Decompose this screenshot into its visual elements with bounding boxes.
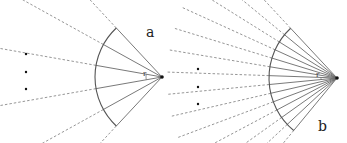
panel-b	[167, 0, 339, 143]
panel-a	[0, 0, 164, 143]
solid-ray	[271, 78, 337, 93]
solid-ray	[287, 78, 337, 124]
dashed-ray-extension	[167, 72, 269, 76]
dashed-ray-extension	[18, 109, 104, 143]
solid-ray	[285, 35, 337, 78]
dashed-ray-extension	[193, 0, 280, 42]
dashed-ray-extension	[182, 8, 275, 50]
ellipsis-dot	[197, 103, 199, 105]
wavefront-arc	[95, 28, 116, 126]
diagram-canvas: a b r r	[0, 0, 347, 143]
solid-ray	[116, 28, 162, 77]
dashed-ray-extension	[168, 85, 270, 95]
ellipsis-dot	[25, 71, 27, 73]
dashed-ray-extension	[0, 48, 96, 65]
ellipsis-dot	[197, 86, 199, 88]
dashed-ray-extension	[199, 117, 282, 143]
dashed-ray-extension	[206, 0, 285, 35]
panel-a-r-label: r	[143, 70, 146, 78]
dashed-ray-extension	[49, 0, 116, 28]
dashed-ray-extension	[213, 124, 288, 143]
dashed-ray-extension	[18, 0, 104, 45]
panel-b-label: b	[318, 118, 327, 134]
solid-ray	[275, 50, 337, 78]
dashed-ray-extension	[229, 130, 294, 143]
ray-fan-diagram	[0, 0, 347, 143]
solid-ray	[116, 77, 162, 126]
panel-b-r-label: r	[316, 71, 319, 79]
apex-point	[160, 75, 164, 79]
panel-a-label: a	[146, 24, 154, 40]
dashed-ray-extension	[49, 126, 116, 143]
dashed-ray-extension	[187, 110, 277, 143]
dashed-ray-extension	[171, 93, 270, 116]
apex-point	[335, 76, 339, 80]
ellipsis-dot	[197, 68, 199, 70]
ellipsis-dot	[25, 53, 27, 55]
dashed-ray-extension	[221, 0, 291, 28]
ellipsis-dot	[25, 88, 27, 90]
dashed-ray-extension	[0, 89, 96, 106]
